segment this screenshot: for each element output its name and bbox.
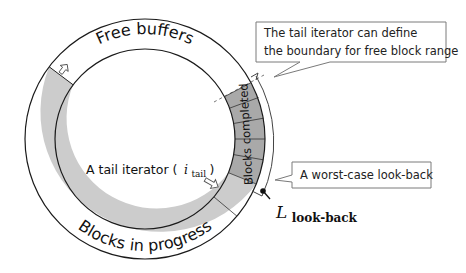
callout-line-2: the boundary for free block range bbox=[264, 44, 458, 58]
tail-boundary-callout: The tail iterator can define the boundar… bbox=[256, 22, 458, 77]
callout-worst-case-text: A worst-case look-back bbox=[300, 168, 433, 182]
ring-buffer-diagram: Free buffers Blocks in progress Blocks c… bbox=[0, 0, 466, 273]
lookback-marker-leader bbox=[263, 191, 270, 199]
tail-iterator-label: A tail iterator ( i tail ) bbox=[86, 162, 215, 180]
worst-case-callout: A worst-case look-back bbox=[275, 162, 433, 188]
lookback-length-label: L look-back bbox=[275, 202, 358, 225]
callout-line-1: The tail iterator can define bbox=[263, 26, 417, 40]
